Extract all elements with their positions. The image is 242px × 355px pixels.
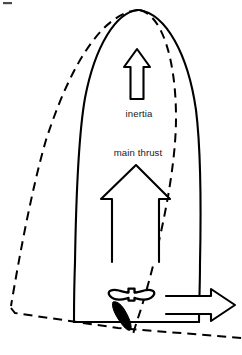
main-thrust-label: main thrust: [114, 147, 163, 158]
scan-artifact-mark: [3, 2, 12, 4]
inertia-label: inertia: [126, 108, 153, 119]
diagram-canvas: inertia main thrust: [0, 0, 242, 355]
boat-maneuver-diagram: inertia main thrust: [0, 0, 242, 355]
propeller-shape: [109, 289, 155, 301]
